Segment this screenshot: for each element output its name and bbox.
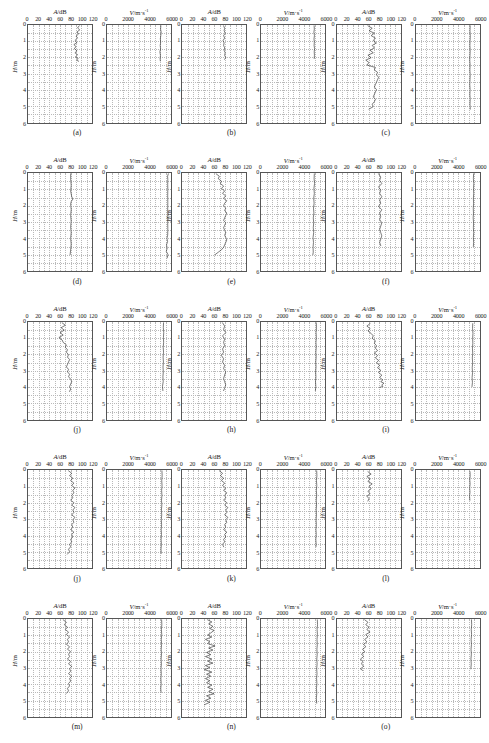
depth-tick-label: 2 [332, 648, 335, 654]
depth-tick-labels: 0123456 [327, 618, 335, 718]
x-tick-label: 2000 [277, 313, 288, 319]
depth-tick-labels: 0123456 [18, 24, 26, 124]
velocity-panel: V/m·s-102000400060000123456H/m [415, 305, 481, 423]
depth-tick-labels: 0123456 [97, 469, 105, 569]
axis-title-unit: /dB [366, 602, 375, 609]
x-tick-label: 6000 [475, 610, 486, 616]
depth-axis-title: H/m [90, 61, 97, 73]
amplitude-curve [182, 322, 246, 420]
x-tick-label: 100 [232, 164, 241, 170]
axis-title-exponent: -1 [453, 453, 457, 458]
depth-tick-label: 6 [23, 269, 26, 275]
depth-tick-label: 3 [332, 368, 335, 374]
depth-tick-labels: 0123456 [327, 172, 335, 272]
depth-tick-label: 4 [256, 236, 259, 242]
depth-axis-title: H/m [90, 210, 97, 222]
axis-title-exponent: -1 [145, 8, 149, 13]
x-tick-label: 100 [386, 610, 395, 616]
panel-group-i: A/dB0204060801001200123456H/mV/m·s-10200… [309, 297, 463, 446]
depth-tick-label: 5 [177, 252, 180, 258]
amplitude-panel: A/dB0204060801001200123456H/m [336, 8, 402, 126]
depth-tick-label: 0 [411, 20, 414, 26]
amplitude-x-tick-labels: 020406080100120 [173, 313, 255, 321]
depth-tick-label: 3 [102, 70, 105, 76]
depth-axis-title: H/m [319, 507, 326, 519]
depth-tick-labels: 0123456 [251, 172, 259, 272]
x-tick-label: 100 [386, 164, 395, 170]
depth-tick-label: 1 [102, 483, 105, 489]
amplitude-x-tick-labels: 020406080100120 [19, 461, 101, 469]
amplitude-x-tick-labels: 020406080100120 [328, 461, 410, 469]
depth-tick-label: 4 [411, 384, 414, 390]
depth-tick-label: 2 [332, 500, 335, 506]
x-tick-label: 40 [355, 461, 361, 467]
depth-tick-label: 5 [332, 401, 335, 407]
axis-title-unit: /dB [366, 305, 375, 312]
panel-caption: (j) [0, 425, 154, 434]
depth-tick-labels: 0123456 [18, 172, 26, 272]
depth-tick-label: 1 [177, 186, 180, 192]
amplitude-x-tick-labels: 020406080100120 [19, 16, 101, 24]
depth-axis-title: H/m [165, 358, 172, 370]
depth-tick-label: 6 [177, 566, 180, 572]
depth-tick-label: 6 [256, 269, 259, 275]
depth-tick-label: 5 [177, 104, 180, 110]
x-tick-label: 80 [377, 610, 383, 616]
x-tick-label: 120 [243, 164, 252, 170]
depth-axis-title: H/m [11, 210, 18, 222]
panel-caption: (k) [154, 574, 308, 583]
x-tick-label: 60 [57, 610, 63, 616]
velocity-axis-title: V/m·s-1 [415, 453, 481, 461]
depth-tick-labels: 0123456 [172, 618, 180, 718]
depth-tick-label: 0 [177, 615, 180, 621]
depth-tick-label: 6 [256, 566, 259, 572]
velocity-plot-area [415, 469, 481, 569]
x-tick-label: 2000 [122, 610, 133, 616]
depth-tick-labels: 0123456 [406, 469, 414, 569]
depth-tick-label: 3 [23, 665, 26, 671]
depth-tick-label: 0 [102, 615, 105, 621]
x-tick-label: 100 [232, 16, 241, 22]
x-tick-label: 120 [397, 313, 406, 319]
velocity-axis-title: V/m·s-1 [415, 156, 481, 164]
depth-axis-title: H/m [244, 507, 251, 519]
velocity-panel: V/m·s-102000400060000123456H/m [415, 8, 481, 126]
x-tick-label: 40 [46, 313, 52, 319]
x-tick-label: 120 [397, 610, 406, 616]
depth-tick-label: 6 [332, 120, 335, 126]
panel-group-o: A/dB0204060801001200123456H/mV/m·s-10200… [309, 594, 463, 743]
depth-tick-label: 2 [102, 351, 105, 357]
x-tick-label: 100 [386, 16, 395, 22]
depth-tick-label: 6 [256, 715, 259, 721]
x-tick-label: 40 [46, 16, 52, 22]
axis-title-unit: /dB [212, 305, 221, 312]
depth-tick-label: 5 [23, 104, 26, 110]
amplitude-x-tick-labels: 020406080100120 [173, 610, 255, 618]
velocity-panel: V/m·s-102000400060000123456H/m [415, 157, 481, 275]
depth-axis-title: H/m [165, 507, 172, 519]
depth-tick-label: 2 [332, 202, 335, 208]
x-tick-label: 6000 [475, 461, 486, 467]
amplitude-panel: A/dB0204060801001200123456H/m [27, 8, 93, 126]
depth-tick-label: 3 [256, 70, 259, 76]
amplitude-panel: A/dB0204060801001200123456H/m [336, 454, 402, 572]
x-tick-label: 20 [344, 461, 350, 467]
amplitude-panel: A/dB0204060801001200123456H/m [27, 602, 93, 720]
depth-tick-label: 3 [332, 219, 335, 225]
panel-caption: (m) [0, 722, 154, 731]
depth-tick-label: 5 [411, 401, 414, 407]
depth-tick-label: 6 [102, 418, 105, 424]
depth-tick-label: 1 [332, 186, 335, 192]
depth-tick-label: 4 [177, 87, 180, 93]
depth-tick-label: 2 [23, 500, 26, 506]
depth-tick-label: 2 [177, 500, 180, 506]
amplitude-plot-area [181, 24, 247, 124]
depth-tick-label: 4 [332, 384, 335, 390]
velocity-plot-area [415, 24, 481, 124]
depth-tick-label: 3 [23, 219, 26, 225]
depth-tick-label: 2 [256, 648, 259, 654]
amplitude-plot-area [336, 469, 402, 569]
depth-tick-label: 1 [332, 37, 335, 43]
panel-row: A/dB0204060801001200123456H/mV/m·s-10200… [0, 446, 463, 595]
